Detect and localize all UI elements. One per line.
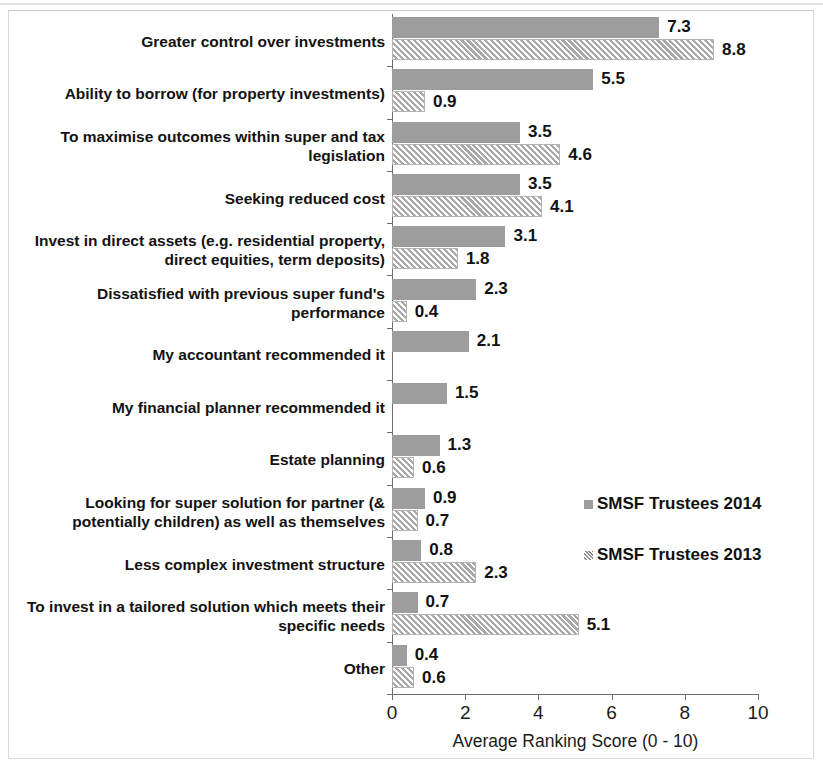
bar-row: Seeking reduced cost3.54.1 xyxy=(392,171,758,223)
legend-swatch-2014-icon xyxy=(584,500,593,509)
bar-value-2013: 8.8 xyxy=(722,39,746,60)
bar-row: Dissatisfied with previous super fund's … xyxy=(392,276,758,328)
bar-value-2014: 5.5 xyxy=(601,68,625,89)
category-label: Greater control over investments xyxy=(7,32,385,51)
bar-value-2013: 5.1 xyxy=(587,614,611,635)
bar-value-2013: 2.3 xyxy=(484,562,508,583)
bar-value-2014: 1.3 xyxy=(448,434,472,455)
bar-2013 xyxy=(392,91,425,112)
bar-2014 xyxy=(392,592,418,613)
category-label: To maximise outcomes within super and ta… xyxy=(7,127,385,165)
bar-2013 xyxy=(392,196,542,217)
x-axis-tick-label: 8 xyxy=(680,702,691,724)
bar-row: Estate planning1.30.6 xyxy=(392,432,758,484)
bar-value-2013: 0.6 xyxy=(422,667,446,688)
bar-row: To maximise outcomes within super and ta… xyxy=(392,119,758,171)
bar-2014 xyxy=(392,279,476,300)
bar-value-2014: 0.4 xyxy=(415,644,439,665)
category-label: Dissatisfied with previous super fund's … xyxy=(7,284,385,322)
bar-row: Greater control over investments7.38.8 xyxy=(392,14,758,66)
bar-value-2014: 2.1 xyxy=(477,330,501,351)
bar-2014 xyxy=(392,122,520,143)
bar-2013 xyxy=(392,457,414,478)
bar-value-2014: 2.3 xyxy=(484,278,508,299)
category-label: Seeking reduced cost xyxy=(7,189,385,208)
bar-value-2013: 4.1 xyxy=(550,196,574,217)
x-axis-line xyxy=(392,694,759,695)
category-label: My accountant recommended it xyxy=(7,345,385,364)
bar-value-2014: 0.8 xyxy=(429,539,453,560)
bar-row: Other0.40.6 xyxy=(392,642,758,694)
bar-value-2013: 0.9 xyxy=(433,91,457,112)
bar-2013 xyxy=(392,144,560,165)
x-axis-tick xyxy=(685,694,686,700)
bar-value-2013: 4.6 xyxy=(568,144,592,165)
x-axis-tick xyxy=(392,694,393,700)
bar-2014 xyxy=(392,435,440,456)
bar-row: My accountant recommended it2.1 xyxy=(392,328,758,380)
bar-2014 xyxy=(392,540,421,561)
bar-value-2014: 0.7 xyxy=(426,591,450,612)
bar-2014 xyxy=(392,174,520,195)
category-label: Other xyxy=(7,659,385,678)
bar-value-2014: 7.3 xyxy=(667,16,691,37)
bar-value-2014: 1.5 xyxy=(455,382,479,403)
category-label: Estate planning xyxy=(7,450,385,469)
x-axis-tick-label: 2 xyxy=(460,702,471,724)
bar-value-2014: 3.5 xyxy=(528,121,552,142)
bar-value-2014: 3.1 xyxy=(513,225,537,246)
category-label: Looking for super solution for partner (… xyxy=(7,493,385,531)
bar-value-2014: 0.9 xyxy=(433,487,457,508)
category-label: Less complex investment structure xyxy=(7,555,385,574)
horizontal-bar-chart: Greater control over investments7.38.8Ab… xyxy=(0,0,823,769)
x-axis-tick xyxy=(465,694,466,700)
x-axis-tick xyxy=(612,694,613,700)
x-axis-tick-label: 10 xyxy=(747,702,768,724)
bar-2013 xyxy=(392,562,476,583)
legend-label-2014: SMSF Trustees 2014 xyxy=(597,494,761,514)
bar-row: Invest in direct assets (e.g. residentia… xyxy=(392,223,758,275)
bar-row: To invest in a tailored solution which m… xyxy=(392,589,758,641)
x-axis-tick xyxy=(538,694,539,700)
bar-2014 xyxy=(392,226,505,247)
x-axis-tick xyxy=(758,694,759,700)
bar-2014 xyxy=(392,383,447,404)
bar-value-2013: 0.7 xyxy=(426,510,450,531)
category-label: My financial planner recommended it xyxy=(7,398,385,417)
bar-2013 xyxy=(392,39,714,60)
bar-2013 xyxy=(392,301,407,322)
bar-row: My financial planner recommended it1.5 xyxy=(392,380,758,432)
bar-2013 xyxy=(392,510,418,531)
bar-value-2013: 1.8 xyxy=(466,248,490,269)
bar-2014 xyxy=(392,488,425,509)
x-axis-tick-label: 0 xyxy=(387,702,398,724)
x-axis-title: Average Ranking Score (0 - 10) xyxy=(392,731,759,752)
category-label: To invest in a tailored solution which m… xyxy=(7,597,385,635)
x-axis-tick-label: 4 xyxy=(533,702,544,724)
bar-row: Ability to borrow (for property investme… xyxy=(392,66,758,118)
bar-2013 xyxy=(392,248,458,269)
bar-2014 xyxy=(392,17,659,38)
bar-2014 xyxy=(392,69,593,90)
legend-item-2013: SMSF Trustees 2013 xyxy=(584,545,761,565)
chart-page: Greater control over investments7.38.8Ab… xyxy=(0,0,823,769)
legend-label-2013: SMSF Trustees 2013 xyxy=(597,545,761,565)
category-label: Ability to borrow (for property investme… xyxy=(7,84,385,103)
bar-value-2013: 0.4 xyxy=(415,301,439,322)
bar-value-2014: 3.5 xyxy=(528,173,552,194)
legend-swatch-2013-icon xyxy=(584,551,593,560)
bar-2014 xyxy=(392,331,469,352)
bar-value-2013: 0.6 xyxy=(422,457,446,478)
legend-item-2014: SMSF Trustees 2014 xyxy=(584,494,761,514)
x-axis-tick-label: 6 xyxy=(606,702,617,724)
bar-2013 xyxy=(392,614,579,635)
bar-2014 xyxy=(392,645,407,666)
bar-2013 xyxy=(392,667,414,688)
category-label: Invest in direct assets (e.g. residentia… xyxy=(7,231,385,269)
